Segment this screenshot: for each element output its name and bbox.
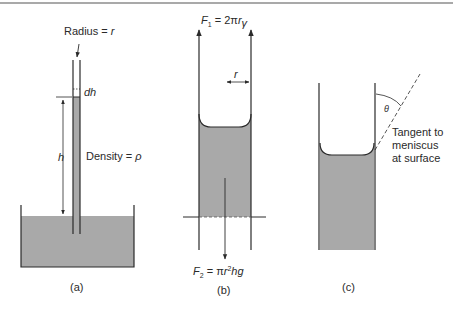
capillary-rise-figure: Radius = r dh h Density = ρ (a) F1 = 2πr… [0,0,453,309]
column-liquid [320,143,374,250]
radius-arrow [77,44,79,57]
panel-c: θ Tangent to meniscus at surface (c) [319,74,443,293]
caption-c: (c) [342,281,355,293]
f2-label: F2 = πr2hg [193,265,244,279]
f1-label: F1 = 2πrγ [201,14,249,29]
density-label: Density = ρ [86,150,142,162]
caption-a: (a) [70,281,83,293]
tube-liquid [73,97,80,233]
panel-a: Radius = r dh h Density = ρ (a) [21,25,142,293]
meniscus [199,114,251,127]
theta-label: θ [384,104,389,114]
panel-b: F1 = 2πrγ r F2 = πr2hg (b) [183,14,266,296]
dh-label: dh [84,86,96,98]
tangent-label-line2: meniscus [392,139,439,151]
h-label: h [58,151,64,163]
tangent-label-line3: at surface [392,152,440,164]
r-label: r [234,68,239,80]
meniscus [320,143,374,155]
radius-label: Radius = r [64,25,116,37]
caption-b: (b) [217,284,230,296]
tangent-label-line1: Tangent to [392,126,443,138]
